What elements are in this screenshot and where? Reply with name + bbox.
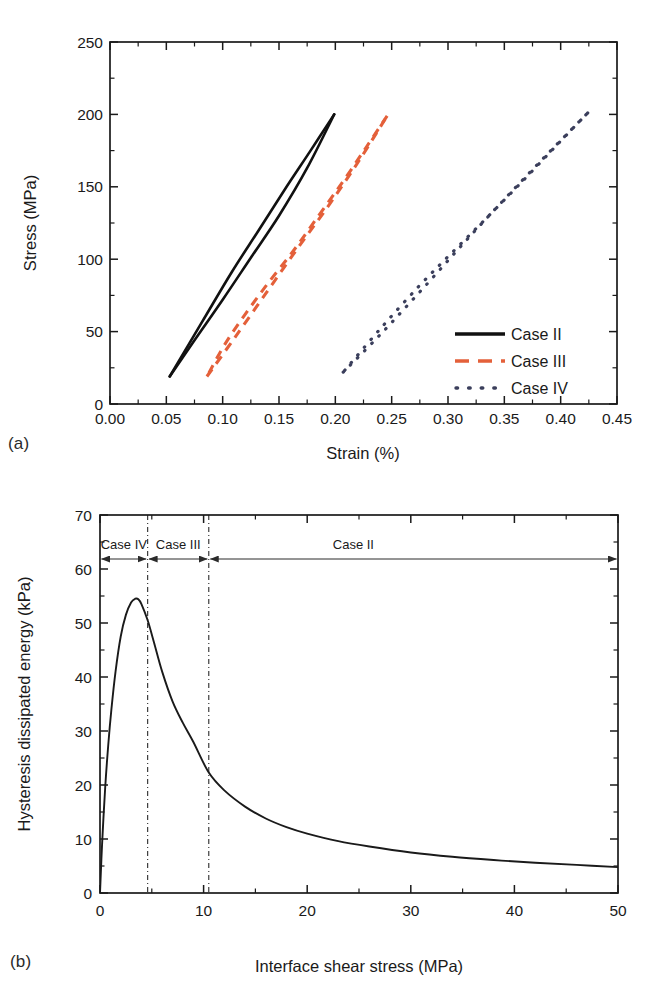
series-case-iii-loading xyxy=(207,116,387,377)
y-tick-label: 200 xyxy=(77,106,103,123)
x-tick-label: 0.45 xyxy=(602,410,632,427)
region-label: Case II xyxy=(333,537,374,552)
panel-b-tick-labels: 01020304050010203040506070 xyxy=(75,507,627,920)
panel-b-label: (b) xyxy=(10,952,31,972)
series-dissipated-energy xyxy=(100,598,618,893)
panel-a-legend: Case II Case III Case IV xyxy=(455,326,568,397)
series-case-iii-unloading xyxy=(207,116,387,377)
panel-a-stress-strain: 0.000.050.100.150.200.250.300.350.400.45… xyxy=(0,0,667,470)
x-tick-label: 0.40 xyxy=(546,410,577,427)
panel-a-label: (a) xyxy=(8,434,29,454)
legend-label-case-iv: Case IV xyxy=(511,380,568,397)
y-tick-label: 60 xyxy=(75,561,93,578)
figure-container: 0.000.050.100.150.200.250.300.350.400.45… xyxy=(0,0,667,995)
panel-b-frame xyxy=(100,515,618,893)
x-tick-label: 50 xyxy=(609,902,627,919)
panel-b-svg: 01020304050010203040506070 Case IVCase I… xyxy=(0,460,667,995)
x-tick-label: 0.30 xyxy=(433,410,464,427)
panel-a-y-axis-title: Stress (MPa) xyxy=(21,175,39,271)
legend-label-case-iii: Case III xyxy=(511,353,566,370)
x-tick-label: 0 xyxy=(96,902,105,919)
y-tick-label: 70 xyxy=(75,507,93,524)
y-tick-label: 20 xyxy=(75,777,93,794)
y-tick-label: 150 xyxy=(77,178,103,195)
region-label: Case III xyxy=(156,537,201,552)
x-tick-label: 0.20 xyxy=(320,410,351,427)
y-tick-label: 50 xyxy=(86,323,104,340)
panel-a-svg: 0.000.050.100.150.200.250.300.350.400.45… xyxy=(0,0,667,470)
panel-b-series xyxy=(100,598,618,893)
y-tick-label: 10 xyxy=(75,831,93,848)
y-tick-label: 0 xyxy=(94,396,103,413)
panel-b-dissipated-energy: 01020304050010203040506070 Case IVCase I… xyxy=(0,460,667,995)
x-tick-label: 20 xyxy=(299,902,317,919)
panel-b-y-axis-title: Hysteresis dissipated energy (kPa) xyxy=(15,577,33,832)
y-tick-label: 0 xyxy=(83,885,92,902)
x-tick-label: 0.05 xyxy=(151,410,181,427)
panel-b-region-dividers xyxy=(148,515,209,893)
series-case-ii-unloading xyxy=(170,114,334,376)
x-tick-label: 30 xyxy=(402,902,420,919)
legend-label-case-ii: Case II xyxy=(511,326,562,343)
y-tick-label: 250 xyxy=(77,34,103,51)
y-tick-label: 30 xyxy=(75,723,93,740)
x-tick-label: 0.35 xyxy=(489,410,519,427)
x-tick-label: 0.25 xyxy=(377,410,407,427)
region-label: Case IV xyxy=(101,537,148,552)
x-tick-label: 0.00 xyxy=(95,410,126,427)
x-tick-label: 0.15 xyxy=(264,410,294,427)
panel-b-ticks xyxy=(100,515,618,893)
panel-b-region-labels: Case IVCase IIICase II xyxy=(101,537,374,552)
y-tick-label: 40 xyxy=(75,669,93,686)
panel-b-x-axis-title: Interface shear stress (MPa) xyxy=(255,957,463,975)
y-tick-label: 50 xyxy=(75,615,93,632)
x-tick-label: 40 xyxy=(506,902,524,919)
x-tick-label: 10 xyxy=(195,902,213,919)
x-tick-label: 0.10 xyxy=(208,410,239,427)
y-tick-label: 100 xyxy=(77,251,103,268)
